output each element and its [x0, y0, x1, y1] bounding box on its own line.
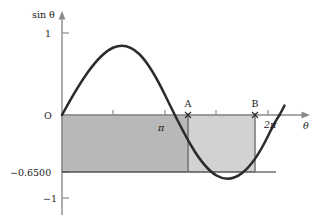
sine-curve-figure: sin θ θ O 1 −0.6500 −1 π 2π A B	[0, 0, 331, 224]
x-axis-label: θ	[303, 120, 309, 131]
y-tick-label-1: 1	[45, 28, 51, 39]
right-rectangle	[188, 115, 255, 172]
figure-container: sin θ θ O 1 −0.6500 −1 π 2π A B	[0, 0, 331, 224]
point-b-label: B	[252, 98, 259, 109]
origin-label: O	[44, 110, 52, 121]
y-tick-label-neg-1: −1	[43, 193, 57, 204]
y-tick-label-neg-0-65: −0.6500	[10, 167, 51, 178]
x-tick-label-pi: π	[157, 122, 165, 133]
sine-curve-tail	[280, 106, 285, 116]
x-tick-label-two-pi: 2π	[263, 119, 277, 130]
y-axis-label: sin θ	[32, 9, 55, 20]
left-rectangle	[62, 115, 188, 172]
x-axis-arrowhead	[302, 112, 311, 119]
y-axis-arrowhead	[59, 11, 66, 20]
point-a-label: A	[184, 98, 192, 109]
